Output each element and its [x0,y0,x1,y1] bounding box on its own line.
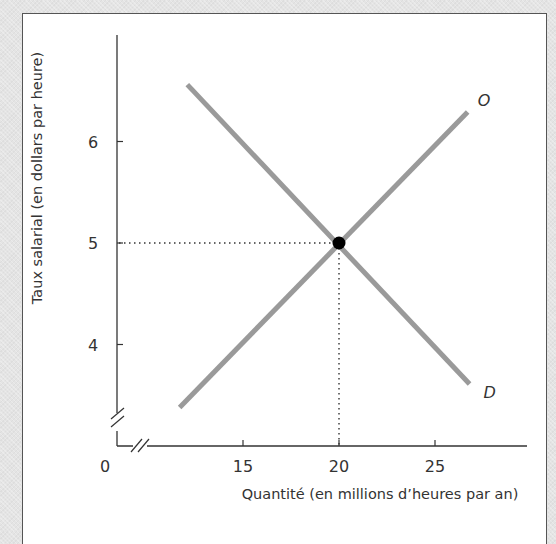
reference-lines [119,243,339,446]
y-tick-label: 4 [88,336,98,355]
demand-curve [187,85,469,384]
equilibrium-point [333,237,346,250]
demand-label: D [484,383,496,402]
x-tick-label: 20 [329,457,349,476]
y-tick-label: 6 [88,133,98,152]
y-tick-label: 5 [88,234,98,253]
curves [180,85,470,408]
x-tick-label: 15 [233,457,253,476]
y-axis-title: Taux salarial (en dollars par heure) [29,52,45,305]
supply-curve [180,112,468,407]
origin-label: 0 [100,457,110,476]
x-axis-title: Quantité (en millions d’heures par an) [242,486,519,502]
x-tick-label: 25 [425,457,445,476]
supply-label: O [478,91,491,110]
